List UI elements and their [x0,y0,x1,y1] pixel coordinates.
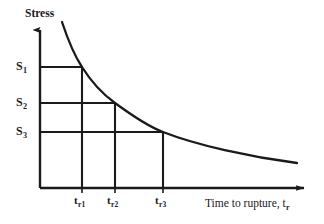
stress-label-subscript: 1 [23,66,27,75]
x-axis-title: Time to rupture, tr [205,198,289,210]
time-tick-label-tr1: tr1 [74,195,85,206]
stress-label-base: S [16,59,23,73]
time-label-subscript: r3 [159,200,166,209]
creep-rupture-chart: Stress Time to rupture, tr S1 S2 S3 tr1 … [0,0,324,224]
stress-label-base: S [16,124,23,138]
axis-lines [40,30,304,188]
time-label-subscript: r2 [111,200,118,209]
stress-label-subscript: 3 [23,131,27,140]
time-label-subscript: r1 [78,200,85,209]
stress-rupture-curve [62,22,297,163]
stress-label-subscript: 2 [23,102,27,111]
time-tick-label-tr3: tr3 [155,195,166,206]
time-tick-label-tr2: tr2 [107,195,118,206]
x-axis-title-subscript: r [286,203,289,212]
x-axis-title-text: Time to rupture, t [205,197,286,209]
stress-level-label-s3: S3 [16,125,27,137]
stress-level-label-s1: S1 [16,60,27,72]
construction-lines [40,67,163,188]
plot-canvas [0,0,324,224]
stress-level-label-s2: S2 [16,96,27,108]
stress-label-base: S [16,95,23,109]
y-axis-title: Stress [25,8,54,20]
